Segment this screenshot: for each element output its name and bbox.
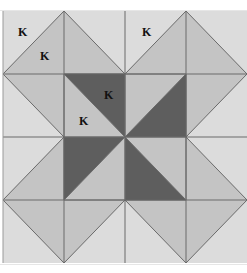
label-k-5: K: [79, 114, 89, 128]
label-k-4: K: [104, 88, 114, 102]
quilt-block-diagram: K K K K K: [0, 0, 247, 273]
quilt-svg: K K K K K: [0, 0, 247, 273]
label-k-2: K: [40, 49, 50, 63]
label-k-3: K: [142, 25, 152, 39]
label-k-1: K: [18, 25, 28, 39]
